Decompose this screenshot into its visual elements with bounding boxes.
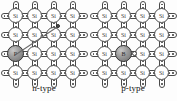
silicon-atom: Si (8, 8, 23, 23)
free-electron-dot (56, 24, 60, 28)
silicon-atom: Si (97, 65, 112, 80)
silicon-atom: Si (46, 8, 61, 23)
silicon-atom: Si (65, 8, 80, 23)
silicon-atom: Si (8, 65, 23, 80)
silicon-atom: Si (27, 46, 42, 61)
dopant-atom: B (115, 45, 132, 62)
silicon-atom: Si (154, 46, 169, 61)
silicon-atom: Si (135, 46, 150, 61)
silicon-atom: Si (97, 8, 112, 23)
silicon-atom: Si (8, 27, 23, 42)
silicon-atom: Si (135, 65, 150, 80)
silicon-atom: Si (27, 65, 42, 80)
silicon-atom: Si (116, 65, 131, 80)
figure-root: SiSiSiSiSiSiSiSiPSiSiSiSiSiSiSi n-type S… (0, 0, 177, 101)
silicon-atom: Si (154, 8, 169, 23)
silicon-atom: Si (116, 8, 131, 23)
silicon-atom: Si (27, 8, 42, 23)
silicon-lattice-n-type: SiSiSiSiSiSiSiSiPSiSiSiSiSiSiSi (6, 6, 82, 80)
silicon-atom: Si (116, 27, 131, 42)
silicon-atom: Si (65, 27, 80, 42)
silicon-atom: Si (154, 65, 169, 80)
silicon-atom: Si (97, 46, 112, 61)
silicon-lattice-p-type: SiSiSiSiSiSiSiSiSiBSiSiSiSiSiSi (95, 6, 171, 80)
silicon-atom: Si (46, 46, 61, 61)
panel-p-type: SiSiSiSiSiSiSiSiSiBSiSiSiSiSiSi p-type (89, 0, 177, 101)
panel-n-type: SiSiSiSiSiSiSiSiPSiSiSiSiSiSiSi n-type (0, 0, 88, 101)
silicon-atom: Si (46, 65, 61, 80)
silicon-atom: Si (27, 27, 42, 42)
silicon-atom: Si (135, 27, 150, 42)
silicon-atom: Si (65, 46, 80, 61)
silicon-atom: Si (97, 27, 112, 42)
hole-marker (132, 51, 137, 56)
silicon-atom: Si (135, 8, 150, 23)
silicon-atom: Si (65, 65, 80, 80)
silicon-atom: Si (154, 27, 169, 42)
